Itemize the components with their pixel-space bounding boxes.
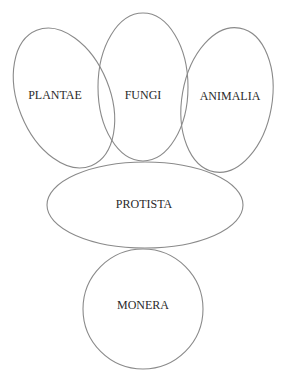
- kingdoms-diagram: PLANTAE FUNGI ANIMALIA PROTISTA MONERA: [0, 0, 283, 383]
- plantae-label: PLANTAE: [28, 88, 82, 102]
- monera-label: MONERA: [117, 298, 169, 312]
- animalia-label: ANIMALIA: [200, 89, 261, 103]
- fungi-label: FUNGI: [125, 88, 162, 102]
- protista-label: PROTISTA: [116, 197, 173, 211]
